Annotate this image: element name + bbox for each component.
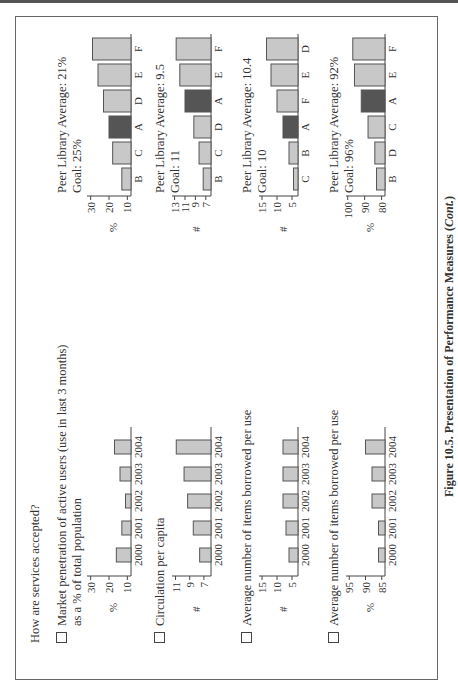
x-tick-label: D	[132, 97, 144, 105]
bar-E	[98, 64, 131, 86]
bar-C	[113, 142, 131, 164]
y-tick-label: 90	[359, 202, 371, 214]
y-tick-label: 5	[286, 582, 298, 588]
x-tick-label: B	[299, 149, 311, 156]
bar-A	[185, 90, 211, 112]
x-tick-label: 2001	[132, 517, 144, 539]
y-tick-label: 20	[103, 202, 115, 214]
x-tick-label: 2002	[386, 490, 398, 512]
y-tick-label: 10	[121, 202, 133, 214]
x-tick-label: 2000	[386, 544, 398, 567]
chart-peers-1: %102030BCADEF	[85, 18, 145, 238]
bar-B	[289, 142, 298, 164]
bar-2002	[372, 494, 385, 508]
measure-label-text: Market penetration of active users (use …	[55, 344, 69, 626]
bar-B	[203, 168, 211, 190]
chart-trend-3: #5101520002001200220032004	[257, 438, 312, 618]
peer-average: Peer Library Average: 21%	[55, 57, 70, 193]
measure-label-text: Circulation per capita	[153, 518, 167, 626]
measure-label-3: Average number of items borrowed per use	[240, 410, 255, 643]
measure-label-text-2: as a % of total population	[70, 498, 84, 626]
y-axis-label: %	[107, 603, 119, 612]
bar-E	[354, 64, 385, 86]
y-tick-label: 15	[256, 582, 268, 594]
bar-D	[375, 142, 385, 164]
bar-2002	[283, 494, 298, 508]
y-tick-label: 10	[121, 582, 133, 594]
x-tick-label: 2001	[386, 517, 398, 539]
bar-C	[368, 116, 385, 138]
x-tick-label: 2003	[212, 463, 224, 486]
checkbox-icon	[56, 632, 67, 643]
x-tick-label: B	[212, 175, 224, 182]
bar-F	[353, 38, 385, 60]
x-tick-label: F	[386, 46, 398, 52]
x-tick-label: B	[386, 175, 398, 182]
y-tick-label: 5	[286, 202, 298, 208]
y-tick-label: 10	[271, 202, 283, 214]
bar-2003	[283, 467, 298, 481]
x-tick-label: C	[299, 175, 311, 182]
x-tick-label: 2003	[132, 463, 144, 486]
bar-2001	[122, 521, 131, 535]
bar-2003	[120, 467, 131, 481]
x-tick-label: C	[132, 149, 144, 156]
bar-2004	[115, 440, 132, 454]
x-tick-label: 2004	[132, 436, 144, 459]
caption-italic: Cont.	[442, 200, 456, 227]
bar-2004	[366, 440, 386, 454]
x-tick-label: E	[299, 71, 311, 78]
y-tick-label: 90	[360, 582, 372, 594]
peer-average: Peer Library Average: 10.4	[240, 58, 255, 193]
x-tick-label: 2004	[212, 436, 224, 459]
chart-peers-3: #51015CBAFED	[257, 18, 312, 238]
bar-F	[93, 38, 132, 60]
x-tick-label: A	[299, 123, 311, 131]
bar-C	[199, 142, 211, 164]
question-title: How are services accepted?	[28, 505, 43, 643]
bar-E	[271, 64, 298, 86]
measure-label-text: Average number of items borrowed per use	[327, 410, 341, 626]
x-tick-label: 2001	[299, 517, 311, 539]
y-tick-label: 100	[342, 202, 354, 219]
y-tick-label: 80	[376, 202, 388, 214]
bar-A	[283, 116, 298, 138]
bar-2001	[193, 521, 211, 535]
bar-2004	[176, 440, 211, 454]
y-tick-label: 7	[198, 582, 210, 588]
y-axis-label: #	[190, 606, 202, 612]
y-axis-label: #	[277, 606, 289, 612]
figure-caption: Figure 10.5. Presentation of Performance…	[442, 0, 457, 693]
bar-2000	[116, 548, 131, 562]
y-axis-label: %	[364, 603, 376, 612]
bar-D	[194, 116, 211, 138]
x-tick-label: E	[212, 71, 224, 78]
bar-C	[294, 168, 299, 190]
measure-label-text: Average number of items borrowed per use	[240, 410, 254, 626]
x-tick-label: F	[212, 46, 224, 52]
bar-2001	[379, 521, 386, 535]
peer-average: Peer Library Average: 9.5	[153, 64, 168, 193]
bar-2003	[184, 467, 211, 481]
y-tick-label: 30	[85, 202, 97, 214]
peer-average: Peer Library Average: 92%	[327, 57, 342, 193]
y-tick-label: 11	[170, 582, 182, 593]
rotated-page: How are services accepted? Market penetr…	[0, 0, 458, 693]
bar-A	[109, 116, 131, 138]
x-tick-label: 2000	[132, 544, 144, 567]
x-tick-label: A	[132, 123, 144, 131]
measure-label-1: Market penetration of active users (use …	[55, 344, 85, 643]
y-axis-label: #	[190, 226, 202, 232]
bar-E	[180, 64, 211, 86]
bar-B	[377, 168, 385, 190]
bar-2002	[188, 494, 211, 508]
x-tick-label: D	[386, 149, 398, 157]
x-tick-label: C	[386, 123, 398, 130]
chart-peers-2: #791113BCDAEF	[170, 18, 225, 238]
y-tick-label: 7	[200, 202, 212, 208]
x-tick-label: F	[132, 46, 144, 52]
y-tick-label: 85	[376, 582, 388, 594]
checkbox-icon	[241, 632, 252, 643]
x-tick-label: 2004	[299, 436, 311, 459]
y-tick-label: 95	[343, 582, 355, 594]
